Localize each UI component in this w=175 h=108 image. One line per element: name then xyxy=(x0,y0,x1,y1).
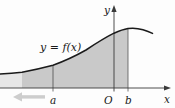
tick-label-a: a xyxy=(50,94,56,106)
x-axis-label: x xyxy=(164,93,170,105)
function-label: y = f(x) xyxy=(39,41,81,54)
figure-canvas: y = f(x) y x O a b xyxy=(0,0,175,108)
y-axis-label: y xyxy=(103,4,111,16)
origin-label: O xyxy=(104,94,113,106)
x-axis-arrow-icon xyxy=(164,85,171,90)
tick-label-b: b xyxy=(125,94,132,106)
extends-to-negative-infinity-arrow-icon xyxy=(13,92,45,101)
shaded-area-region xyxy=(22,29,128,88)
y-axis-arrow-icon xyxy=(111,5,116,12)
improper-integral-figure: y = f(x) y x O a b xyxy=(0,0,175,108)
